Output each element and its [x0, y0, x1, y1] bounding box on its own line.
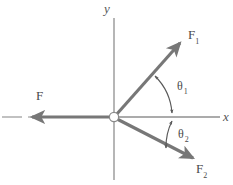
- vector-f-label: F: [36, 89, 43, 106]
- vector-f1-label: F1: [188, 28, 199, 45]
- force-diagram-figure: y x F F1 F2 θ1 θ2: [0, 0, 233, 185]
- x-axis-label: x: [223, 110, 229, 123]
- angle-theta1-arc: [155, 76, 172, 113]
- vector-f2-label-sub: 2: [203, 171, 207, 180]
- angle-theta1-sub: 1: [184, 87, 188, 96]
- angle-theta2-symbol: θ: [178, 127, 184, 141]
- origin-marker: [109, 112, 118, 121]
- vector-f-label-base: F: [36, 88, 43, 103]
- vectors-group: [32, 43, 193, 158]
- y-axis-label: y: [104, 2, 110, 15]
- angle-theta1-label: θ1: [177, 80, 187, 95]
- vector-f2-label: F2: [196, 162, 207, 179]
- angle-theta1-symbol: θ: [177, 79, 183, 93]
- angle-theta2-label: θ2: [178, 128, 188, 143]
- angle-theta2-sub: 2: [185, 135, 189, 144]
- vector-f1-label-sub: 1: [195, 37, 199, 46]
